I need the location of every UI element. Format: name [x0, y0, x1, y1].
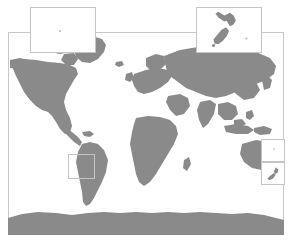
inset-box-patagonia[interactable] — [68, 154, 95, 179]
inset-marker-dot-upper — [273, 148, 275, 150]
north-america — [13, 59, 78, 134]
inset-box-australia-upper[interactable] — [261, 139, 285, 162]
madagascar — [183, 157, 191, 171]
middle-east — [166, 94, 190, 116]
nz-inset-marker-dot — [245, 37, 247, 39]
map-plot-frame — [8, 32, 284, 235]
philippines — [246, 110, 254, 120]
world-map-figure — [0, 0, 292, 243]
antarctica — [8, 212, 284, 235]
inset-box-new-zealand[interactable] — [196, 7, 262, 53]
land-polygons — [8, 36, 284, 235]
new-guinea — [254, 126, 272, 135]
baffin-island — [61, 53, 78, 65]
nz-small-south — [268, 173, 276, 180]
caribbean — [82, 131, 94, 137]
india — [197, 100, 216, 128]
africa — [130, 116, 178, 186]
new-zealand-small-inset-svg — [262, 163, 284, 184]
inset-marker-dot — [59, 30, 61, 32]
central-america — [64, 128, 82, 146]
nz-south-island — [213, 27, 229, 44]
nz-stewart-island — [212, 44, 216, 47]
inset-box-topleft[interactable] — [30, 7, 96, 53]
nz-small-north — [274, 168, 279, 174]
inset-box-australia-lower[interactable] — [261, 162, 285, 185]
new-zealand-inset-svg — [197, 8, 261, 52]
world-landmass-svg — [8, 32, 284, 235]
iceland — [115, 61, 124, 67]
southeast-asia — [218, 102, 238, 120]
